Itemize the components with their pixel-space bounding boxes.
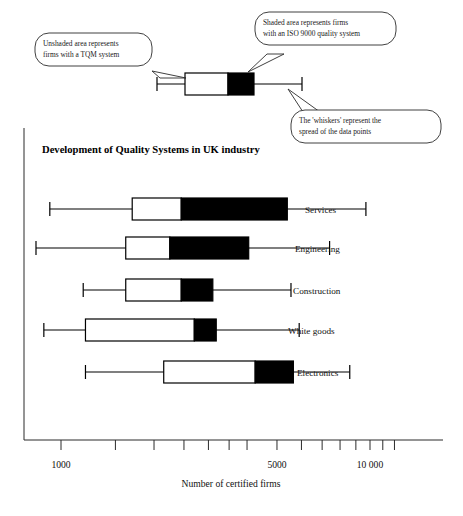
callout-whiskers-line2: spread of the data points	[299, 127, 371, 136]
example-box-shaded	[228, 73, 254, 95]
x-axis-tick-label: 1000	[51, 459, 70, 470]
box-plot-row	[83, 279, 291, 301]
page-title: Development of Quality Systems in UK ind…	[42, 144, 260, 155]
callout-shaded-tail	[248, 54, 284, 72]
x-axis-tick-label: 10 000	[357, 459, 384, 470]
callout-whiskers-line1: The 'whiskers' represent the	[299, 116, 382, 125]
callout-unshaded: Unshaded area represents firms with a TQ…	[35, 33, 186, 78]
box-unshaded-tqm	[132, 198, 181, 220]
x-axis-tick-labels: 1000500010 000	[51, 459, 383, 470]
box-unshaded-tqm	[85, 319, 194, 341]
box-shaded-iso9000	[181, 279, 213, 301]
box-unshaded-tqm	[126, 279, 182, 301]
box-plot-figure: Unshaded area represents firms with a TQ…	[0, 0, 463, 516]
example-box-unshaded	[185, 73, 228, 95]
callout-unshaded-line2: firms with a TQM system	[43, 50, 119, 59]
category-label: White goods	[288, 326, 335, 336]
callout-shaded-line1: Shaded area represents firms	[263, 18, 348, 27]
category-label: Electronics	[297, 368, 339, 378]
category-label: Engineering	[295, 244, 340, 254]
callout-unshaded-tail	[152, 71, 186, 78]
box-shaded-iso9000	[255, 361, 293, 383]
callout-shaded: Shaded area represents firms with an ISO…	[248, 12, 396, 72]
callout-whiskers: The 'whiskers' represent the spread of t…	[288, 89, 441, 143]
box-shaded-iso9000	[194, 319, 216, 341]
box-plot-row	[44, 319, 299, 341]
figure-canvas: Unshaded area represents firms with a TQ…	[0, 0, 463, 516]
x-axis-title: Number of certified firms	[182, 478, 281, 489]
box-unshaded-tqm	[126, 237, 170, 259]
x-axis-ticks	[61, 440, 394, 450]
x-axis-tick-label: 5000	[267, 459, 286, 470]
category-label: Services	[305, 205, 337, 215]
box-shaded-iso9000	[181, 198, 287, 220]
category-label: Construction	[293, 286, 341, 296]
callout-whiskers-tail	[288, 89, 320, 112]
box-plot-row	[36, 237, 330, 259]
box-unshaded-tqm	[164, 361, 255, 383]
callout-shaded-line2: with an ISO 9000 quality system	[263, 29, 360, 38]
callout-unshaded-line1: Unshaded area represents	[43, 39, 119, 48]
category-labels: ServicesEngineeringConstructionWhite goo…	[288, 205, 341, 378]
box-shaded-iso9000	[170, 237, 249, 259]
